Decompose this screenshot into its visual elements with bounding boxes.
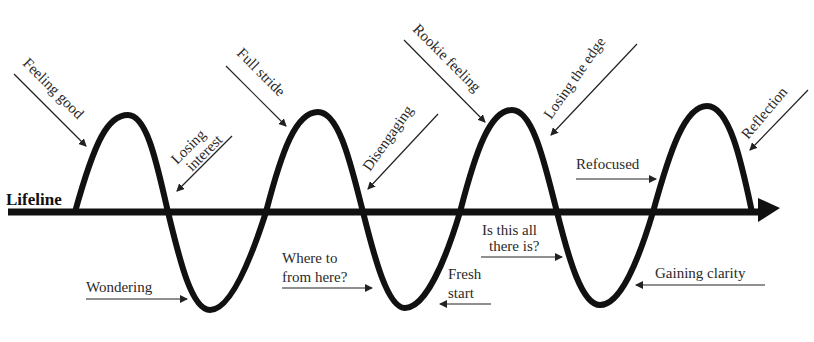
annotation-losing-the-edge: Losing the edge [540, 34, 637, 135]
annotation-where-to: Where to from here? [282, 250, 372, 288]
label-full-stride: Full stride [234, 45, 289, 100]
axis-arrowhead-icon [758, 198, 780, 222]
label-reflection: Reflection [738, 83, 791, 142]
label-feeling-good: Feeling good [20, 55, 87, 122]
annotation-feeling-good: Feeling good [14, 55, 87, 146]
annotation-reflection: Reflection [738, 83, 808, 150]
label-fresh-start-2: start [448, 285, 475, 301]
lifeline-axis [8, 198, 780, 222]
label-where-to-2: from here? [282, 269, 348, 285]
label-fresh-start-1: Fresh [448, 266, 482, 282]
annotation-full-stride: Full stride [226, 45, 289, 126]
annotation-wondering: Wondering [86, 279, 187, 299]
annotation-gaining-clarity: Gaining clarity [636, 265, 765, 285]
label-losing-the-edge: Losing the edge [540, 34, 608, 122]
lifeline-label: Lifeline [6, 190, 62, 209]
annotation-losing-interest: Losing interest [168, 126, 232, 191]
label-disengaging: Disengaging [359, 102, 416, 174]
label-wondering: Wondering [86, 279, 153, 295]
annotation-disengaging: Disengaging [359, 102, 438, 189]
life-wave-curve [75, 106, 752, 310]
lifeline-diagram: Lifeline Feeling good Losing interest Wo… [0, 0, 814, 342]
label-is-this-all-1: Is this all [482, 222, 537, 238]
label-gaining-clarity: Gaining clarity [655, 265, 746, 281]
label-where-to-1: Where to [282, 250, 337, 266]
annotation-fresh-start: Fresh start [440, 266, 491, 304]
label-refocused: Refocused [576, 156, 640, 172]
annotation-rookie-feeling: Rookie feeling [404, 21, 485, 122]
annotation-is-this-all: Is this all there is? [481, 222, 562, 257]
annotation-refocused: Refocused [576, 156, 656, 179]
label-is-this-all-2: there is? [489, 238, 540, 254]
